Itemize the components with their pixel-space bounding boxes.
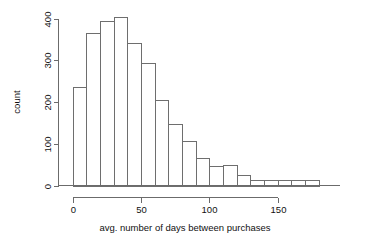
histogram-bar	[128, 44, 142, 187]
histogram-bar	[74, 88, 87, 187]
histogram-plot: 0100200300400 050100150 avg. number of d…	[0, 0, 371, 245]
histogram-bar	[87, 34, 101, 187]
histogram-bar	[101, 22, 115, 187]
x-axis-title: avg. number of days between purchases	[99, 222, 270, 233]
histogram-bar	[115, 18, 128, 187]
y-tick-label: 300	[42, 53, 53, 69]
x-tick-label: 150	[271, 204, 287, 215]
histogram-bar	[238, 176, 251, 187]
y-tick-label: 200	[42, 95, 53, 111]
histogram-bar	[197, 159, 210, 187]
y-tick-label: 400	[42, 12, 53, 28]
chart-canvas: 0100200300400 050100150 avg. number of d…	[0, 0, 371, 245]
y-axis-title: count	[11, 90, 22, 114]
histogram-bar	[224, 166, 238, 187]
plot-background	[0, 0, 371, 245]
histogram-bar	[169, 125, 183, 187]
y-tick-label: 0	[42, 184, 53, 189]
x-tick-label: 0	[71, 204, 76, 215]
x-tick-label: 100	[202, 204, 218, 215]
histogram-bar	[142, 64, 156, 187]
histogram-bar	[156, 101, 169, 187]
histogram-bar	[210, 167, 224, 187]
y-tick-label: 100	[42, 137, 53, 153]
histogram-bar	[183, 142, 197, 187]
x-tick-label: 50	[136, 204, 147, 215]
